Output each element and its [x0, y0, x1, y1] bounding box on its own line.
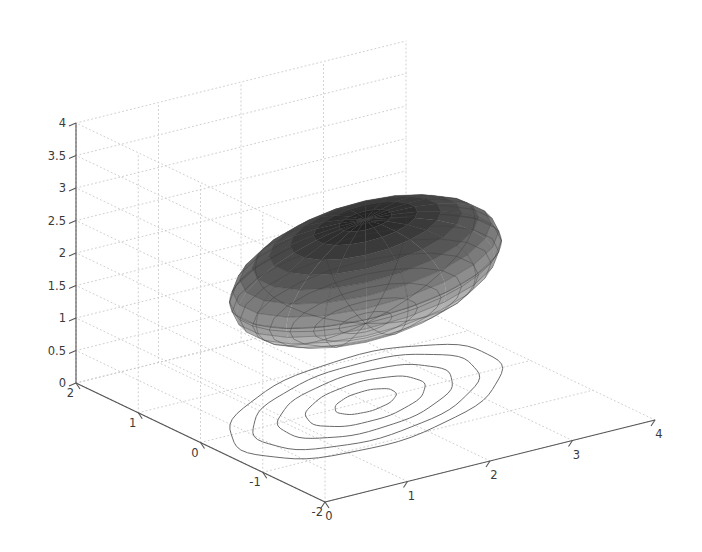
figure-canvas: 00.511.522.533.54210-1-201234	[0, 0, 702, 552]
z-tick-label: 0.5	[48, 344, 66, 358]
x-tick-label: 0	[325, 509, 332, 523]
z-tick-label: 3.5	[48, 149, 66, 163]
z-tick-label: 4	[59, 116, 66, 130]
y-tick-label: 0	[191, 446, 198, 460]
plot-3d-axes: 00.511.522.533.54210-1-201234	[0, 0, 702, 552]
z-tick-label: 0	[59, 376, 66, 390]
x-tick-label: 3	[573, 448, 580, 462]
x-tick-label: 1	[408, 489, 415, 503]
z-tick-label: 2	[59, 246, 66, 260]
z-tick-label: 1.5	[48, 279, 66, 293]
y-tick-label: -2	[312, 505, 323, 519]
y-tick-label: 2	[67, 386, 74, 400]
y-tick-label: -1	[249, 475, 260, 489]
ellipsoid-surface	[230, 194, 502, 348]
z-tick-label: 3	[59, 181, 66, 195]
z-tick-label: 2.5	[48, 214, 66, 228]
z-tick-label: 1	[59, 311, 66, 325]
y-tick-label: 1	[129, 416, 136, 430]
x-tick-label: 4	[655, 427, 662, 441]
x-tick-label: 2	[490, 468, 497, 482]
